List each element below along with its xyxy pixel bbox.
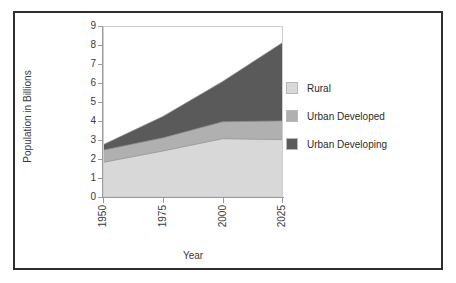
chart-legend: RuralUrban DevelopedUrban Developing: [286, 74, 436, 158]
y-axis-tick-labels: 0123456789: [78, 26, 96, 197]
y-axis-tick: [98, 45, 102, 46]
y-axis-tick-label: 2: [90, 154, 96, 164]
y-axis-tick-label: 1: [90, 173, 96, 183]
area-series-svg: [104, 27, 282, 196]
y-axis-tick: [98, 121, 102, 122]
y-axis-tick: [98, 64, 102, 65]
x-axis-tick-label: 1950: [98, 205, 108, 227]
y-axis-ticks: [98, 26, 102, 197]
legend-item-label: Urban Developed: [307, 111, 385, 122]
x-axis-title: Year: [103, 250, 283, 261]
legend-swatch-icon: [286, 82, 298, 94]
y-axis-tick-label: 6: [90, 78, 96, 88]
x-axis-tick: [163, 198, 164, 203]
legend-item[interactable]: Urban Developed: [286, 102, 436, 130]
y-axis-tick-label: 4: [90, 116, 96, 126]
plot-area: [103, 26, 283, 197]
x-axis-tick: [223, 198, 224, 203]
y-axis-tick: [98, 140, 102, 141]
x-axis-tick-label: 2025: [277, 205, 287, 227]
y-axis-tick-label: 9: [90, 21, 96, 31]
y-axis-tick: [98, 159, 102, 160]
legend-item[interactable]: Urban Developing: [286, 130, 436, 158]
y-axis-tick: [98, 83, 102, 84]
y-axis-title: Population in Billions: [22, 57, 33, 177]
legend-item-label: Urban Developing: [307, 139, 387, 150]
x-axis-tick: [103, 198, 104, 203]
y-axis-tick-label: 7: [90, 59, 96, 69]
y-axis-tick-label: 3: [90, 135, 96, 145]
x-axis-ticks: [103, 198, 283, 203]
x-axis-tick-label: 2000: [218, 205, 228, 227]
x-axis-tick-label: 1975: [158, 205, 168, 227]
legend-swatch-icon: [286, 138, 298, 150]
y-axis-tick-label: 8: [90, 40, 96, 50]
y-axis-tick: [98, 102, 102, 103]
legend-swatch-icon: [286, 110, 298, 122]
y-axis-tick-label: 0: [90, 192, 96, 202]
x-axis-tick: [282, 198, 283, 203]
legend-item[interactable]: Rural: [286, 74, 436, 102]
x-axis-tick-labels: 1950197520002025: [103, 205, 283, 245]
legend-item-label: Rural: [307, 83, 331, 94]
y-axis-tick: [98, 26, 102, 27]
y-axis-tick: [98, 178, 102, 179]
stacked-area-chart: Population in Billions 0123456789 195019…: [0, 0, 456, 283]
y-axis-tick-label: 5: [90, 97, 96, 107]
